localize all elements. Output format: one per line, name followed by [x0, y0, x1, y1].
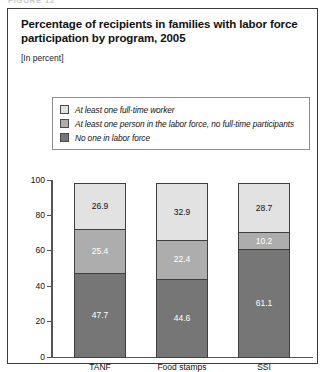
- y-tick-label-80: 80: [36, 210, 45, 220]
- bar-value-food-stamps-partial: 22.4: [174, 255, 191, 264]
- legend-swatch-none: [60, 133, 69, 142]
- legend-item-full-time: At least one full-time worker: [60, 103, 174, 116]
- chart-legend: At least one full-time worker At least o…: [52, 97, 310, 150]
- bar-value-ssi-none: 61.1: [256, 299, 273, 308]
- bar-segment-food-stamps-full-time[interactable]: 32.9: [156, 183, 208, 241]
- legend-item-none: No one in labor force: [60, 131, 150, 144]
- x-axis-label-food-stamps: Food stamps: [137, 362, 227, 372]
- bar-segment-tanf-none[interactable]: 47.7: [74, 273, 126, 357]
- units-note: [In percent]: [21, 53, 64, 63]
- y-tick-label-0: 0: [40, 352, 45, 362]
- legend-label-full-time: At least one full-time worker: [75, 105, 174, 115]
- bar-segment-ssi-none[interactable]: 61.1: [238, 249, 290, 357]
- chart-plot-area: 0 20 40 60 80 100 26.9 25.4: [51, 172, 313, 358]
- y-tick-label-40: 40: [36, 281, 45, 291]
- x-axis-label-ssi: SSI: [219, 362, 309, 372]
- x-axis-label-tanf: TANF: [55, 362, 145, 372]
- bar-segment-food-stamps-partial[interactable]: 22.4: [156, 240, 208, 280]
- bar-segment-tanf-full-time[interactable]: 26.9: [74, 183, 126, 231]
- y-tick-label-100: 100: [31, 175, 45, 185]
- y-axis-line: [51, 180, 53, 357]
- bar-value-food-stamps-none: 44.6: [174, 314, 191, 323]
- legend-label-none: No one in labor force: [75, 133, 150, 143]
- bar-food-stamps[interactable]: 32.9 22.4 44.6: [156, 183, 208, 357]
- bar-segment-ssi-full-time[interactable]: 28.7: [238, 183, 290, 234]
- bar-ssi[interactable]: 28.7 10.2 61.1: [238, 183, 290, 357]
- bar-value-ssi-full-time: 28.7: [256, 204, 273, 213]
- figure-caption: FIGURE 12: [8, 0, 55, 5]
- legend-swatch-full-time: [60, 105, 69, 114]
- bar-tanf[interactable]: 26.9 25.4 47.7: [74, 183, 126, 357]
- legend-item-partial: At least one person in the labor force, …: [60, 117, 294, 130]
- y-tick-label-60: 60: [36, 245, 45, 255]
- legend-label-partial: At least one person in the labor force, …: [75, 119, 294, 129]
- page-title: Percentage of recipients in families wit…: [21, 17, 301, 45]
- bar-value-food-stamps-full-time: 32.9: [174, 208, 191, 217]
- bar-segment-tanf-partial[interactable]: 25.4: [74, 229, 126, 274]
- figure-panel: Percentage of recipients in families wit…: [7, 8, 318, 364]
- bar-value-tanf-none: 47.7: [92, 311, 109, 320]
- y-tick-label-20: 20: [36, 316, 45, 326]
- bar-value-tanf-full-time: 26.9: [92, 202, 109, 211]
- bar-segment-ssi-partial[interactable]: 10.2: [238, 232, 290, 250]
- bar-value-tanf-partial: 25.4: [92, 247, 109, 256]
- bar-value-ssi-partial: 10.2: [256, 237, 273, 246]
- bar-segment-food-stamps-none[interactable]: 44.6: [156, 279, 208, 358]
- legend-swatch-partial: [60, 119, 69, 128]
